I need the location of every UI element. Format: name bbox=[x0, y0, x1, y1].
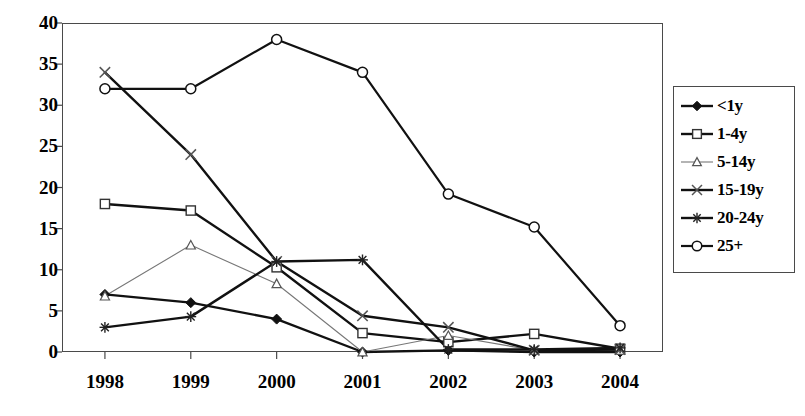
series-<1y bbox=[105, 294, 620, 352]
series-markers-1-4y bbox=[100, 199, 624, 353]
marker-asterisk bbox=[357, 254, 368, 265]
marker-filled-diamond bbox=[272, 314, 282, 324]
y-axis: 0510152025303540 bbox=[14, 0, 58, 416]
legend-item-20-24y[interactable]: 20-24y bbox=[680, 204, 790, 232]
series-25+ bbox=[105, 39, 620, 325]
series-1-4y bbox=[105, 204, 620, 349]
marker-open-square bbox=[186, 206, 195, 215]
legend-item-<1y[interactable]: <1y bbox=[680, 92, 790, 120]
marker-open-square bbox=[358, 328, 367, 337]
series-markers-15-19y bbox=[100, 67, 626, 355]
legend-label: 1-4y bbox=[717, 124, 747, 144]
marker-open-triangle bbox=[444, 331, 453, 340]
x-tick-label: 2000 bbox=[232, 372, 322, 391]
legend-label: 25+ bbox=[717, 236, 743, 256]
marker-open-circle bbox=[443, 189, 453, 199]
legend-item-1-4y[interactable]: 1-4y bbox=[680, 120, 790, 148]
y-tick-label: 30 bbox=[22, 95, 58, 114]
y-tick-label: 40 bbox=[22, 13, 58, 32]
legend-marker-open-circle-icon bbox=[680, 236, 714, 256]
y-tick-label: 15 bbox=[22, 219, 58, 238]
marker-open-circle bbox=[100, 84, 110, 94]
legend-label: <1y bbox=[717, 96, 743, 116]
marker-open-triangle bbox=[186, 240, 195, 249]
series-markers-20-24y bbox=[100, 254, 626, 354]
y-tick-label: 20 bbox=[22, 178, 58, 197]
marker-open-circle bbox=[272, 34, 282, 44]
legend-item-5-14y[interactable]: 5-14y bbox=[680, 148, 790, 176]
marker-asterisk bbox=[443, 344, 454, 355]
y-tick-label: 5 bbox=[22, 301, 58, 320]
legend-label: 20-24y bbox=[717, 208, 763, 228]
legend-marker-open-square-icon bbox=[680, 124, 714, 144]
marker-asterisk bbox=[271, 256, 282, 267]
marker-x-cross bbox=[100, 67, 110, 77]
marker-asterisk bbox=[185, 311, 196, 322]
marker-asterisk bbox=[100, 322, 111, 333]
chart-container: 0510152025303540 19981999200020012002200… bbox=[0, 0, 805, 416]
series-markers-25+ bbox=[100, 34, 625, 330]
y-tick-label: 10 bbox=[22, 260, 58, 279]
marker-open-square bbox=[530, 329, 539, 338]
marker-x-cross bbox=[186, 149, 196, 159]
legend-marker-filled-diamond-icon bbox=[680, 96, 714, 116]
marker-open-square bbox=[100, 199, 109, 208]
y-tick-label: 35 bbox=[22, 54, 58, 73]
legend-marker-open-triangle-icon bbox=[680, 152, 714, 172]
x-axis: 1998199920002001200220032004 bbox=[62, 366, 663, 400]
x-tick-label: 1998 bbox=[60, 372, 150, 391]
marker-open-circle bbox=[529, 222, 539, 232]
x-tick-label: 2003 bbox=[489, 372, 579, 391]
x-tick-label: 2002 bbox=[403, 372, 493, 391]
marker-filled-diamond bbox=[692, 101, 702, 111]
y-tick-label: 25 bbox=[22, 136, 58, 155]
y-tick-label: 0 bbox=[22, 342, 58, 361]
marker-open-circle bbox=[692, 241, 702, 251]
x-tick-label: 2001 bbox=[318, 372, 408, 391]
marker-asterisk bbox=[615, 342, 626, 353]
chart-legend: <1y1-4y5-14y15-19y20-24y25+ bbox=[673, 86, 795, 273]
x-tick-label: 1999 bbox=[146, 372, 236, 391]
legend-marker-asterisk-icon bbox=[680, 208, 714, 228]
legend-item-25+[interactable]: 25+ bbox=[680, 232, 790, 260]
x-tick-label: 2004 bbox=[575, 372, 665, 391]
marker-open-circle bbox=[358, 67, 368, 77]
marker-open-triangle bbox=[272, 279, 281, 288]
series-15-19y bbox=[105, 72, 620, 350]
marker-asterisk bbox=[529, 344, 540, 355]
marker-open-circle bbox=[186, 84, 196, 94]
legend-label: 15-19y bbox=[717, 180, 763, 200]
legend-item-15-19y[interactable]: 15-19y bbox=[680, 176, 790, 204]
marker-filled-diamond bbox=[186, 298, 196, 308]
marker-open-square bbox=[693, 130, 702, 139]
marker-open-circle bbox=[615, 321, 625, 331]
marker-asterisk bbox=[692, 213, 702, 223]
legend-label: 5-14y bbox=[717, 152, 755, 172]
legend-marker-x-cross-icon bbox=[680, 180, 714, 200]
